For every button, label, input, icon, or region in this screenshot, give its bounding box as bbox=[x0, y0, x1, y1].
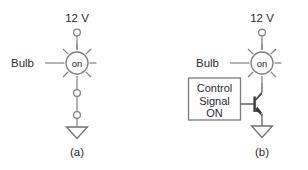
terminal-node-lower-a bbox=[74, 112, 81, 119]
npn-transistor-emitter-arrow-icon bbox=[255, 107, 262, 114]
lamp-state-text-a: on bbox=[72, 58, 83, 69]
control-signal-line2: Signal bbox=[199, 95, 230, 107]
bulb-label-b: Bulb bbox=[196, 57, 219, 69]
panel-b: 12 V on Bulb bbox=[189, 12, 282, 158]
supply-terminal-icon-a bbox=[74, 29, 81, 36]
supply-voltage-label-b: 12 V bbox=[250, 12, 274, 24]
control-signal-line3: ON bbox=[206, 107, 223, 119]
npn-transistor-collector-lead bbox=[256, 94, 263, 101]
panel-a: 12 V on Bulb bbox=[11, 12, 97, 158]
supply-voltage-label-a: 12 V bbox=[65, 12, 89, 24]
supply-terminal-icon-b bbox=[259, 29, 266, 36]
terminal-node-upper-a bbox=[74, 90, 81, 97]
control-signal-line1: Control bbox=[197, 82, 232, 94]
panel-caption-a: (a) bbox=[70, 146, 84, 158]
figure-canvas: 12 V on Bulb bbox=[0, 0, 308, 170]
ground-icon-b bbox=[252, 126, 273, 138]
lamp-state-text-b: on bbox=[257, 58, 268, 69]
bulb-label-a: Bulb bbox=[11, 57, 34, 69]
panel-caption-b: (b) bbox=[255, 146, 269, 158]
ground-icon-a bbox=[67, 127, 88, 139]
circuit-diagram-svg: 12 V on Bulb bbox=[0, 0, 308, 170]
